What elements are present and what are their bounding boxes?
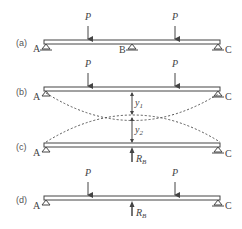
beam [44, 143, 220, 147]
roller-support-icon [214, 200, 222, 205]
support-label-b: B [119, 44, 126, 55]
panel-d: (d) A C P P RB [16, 167, 232, 220]
pin-support-icon [42, 147, 50, 152]
panel-label-d: (d) [16, 195, 27, 205]
reaction-label: RB [135, 207, 147, 220]
support-label-a: A [33, 200, 41, 211]
beam-diagram: (a) A B C P P (b) A C P P y1 [0, 0, 242, 229]
load-label: P [84, 11, 91, 22]
panel-b: (b) A C P P y1 [16, 58, 232, 121]
beam [44, 87, 220, 91]
panel-c: y2 (c) A C RB [16, 115, 232, 166]
support-label-c: C [225, 200, 232, 211]
pin-support-icon [42, 200, 50, 205]
panel-label-b: (b) [16, 87, 27, 97]
load-label: P [171, 167, 178, 178]
load-label: P [171, 11, 178, 22]
load-label: P [84, 58, 91, 69]
panel-label-c: (c) [16, 142, 27, 152]
deflection-curve [46, 93, 220, 121]
support-label-a: A [33, 43, 41, 54]
support-label-a: A [33, 91, 41, 102]
deflection-label-y2: y2 [134, 124, 143, 137]
pin-support-icon [42, 44, 50, 49]
support-label-c: C [225, 91, 232, 102]
deflection-label-y1: y1 [134, 97, 143, 110]
support-label-c: C [225, 44, 232, 55]
panel-label-a: (a) [16, 38, 27, 48]
panel-a: (a) A B C P P [16, 11, 232, 55]
support-label-c: C [225, 148, 232, 159]
roller-support-icon [128, 44, 136, 49]
roller-support-icon [214, 147, 222, 152]
load-label: P [171, 58, 178, 69]
roller-support-icon [214, 44, 222, 49]
reaction-label: RB [135, 153, 147, 166]
roller-support-icon [214, 91, 222, 96]
beam [44, 196, 220, 200]
support-label-a: A [33, 147, 41, 158]
load-label: P [84, 167, 91, 178]
